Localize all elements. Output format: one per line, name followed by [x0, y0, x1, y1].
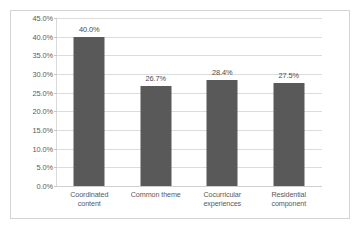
x-axis-category-line: content	[56, 199, 123, 208]
y-axis-tick-label: 35.0%	[13, 51, 53, 60]
bar-slot: 40.0%	[56, 18, 123, 186]
y-axis-tick-label: 5.0%	[13, 163, 53, 172]
bar-value-label: 26.7%	[146, 74, 166, 83]
y-axis-tick-label: 45.0%	[13, 14, 53, 23]
bar[interactable]	[207, 80, 238, 186]
y-axis-tick-label: 10.0%	[13, 144, 53, 153]
bar[interactable]	[74, 37, 105, 186]
x-axis-category-line: Common theme	[123, 190, 190, 199]
y-axis-tick-label: 25.0%	[13, 88, 53, 97]
bar-slot: 26.7%	[123, 18, 190, 186]
chart-plot-wrapper: 45.0%40.0%35.0%30.0%25.0%20.0%15.0%10.0%…	[11, 11, 349, 218]
bar-slot: 27.5%	[256, 18, 323, 186]
bar-value-label: 28.4%	[212, 68, 232, 77]
bar[interactable]	[140, 86, 171, 186]
y-axis-tick-label: 30.0%	[13, 70, 53, 79]
y-axis-tick-label: 15.0%	[13, 126, 53, 135]
x-axis-category-label: Cocurricularexperiences	[189, 190, 256, 208]
bar[interactable]	[273, 83, 304, 186]
bar-slot: 28.4%	[189, 18, 256, 186]
bar-value-label: 27.5%	[279, 71, 299, 80]
x-axis-category-label: Coordinatedcontent	[56, 190, 123, 208]
x-axis-category-line: Coordinated	[56, 190, 123, 199]
y-axis-tick-label: 20.0%	[13, 107, 53, 116]
y-axis-tick-label: 40.0%	[13, 32, 53, 41]
x-axis-category-line: experiences	[189, 199, 256, 208]
x-axis-category-line: Cocurricular	[189, 190, 256, 199]
x-axis: CoordinatedcontentCommon themeCocurricul…	[56, 190, 322, 208]
gridline	[57, 186, 322, 187]
bar-series: 40.0%26.7%28.4%27.5%	[56, 18, 322, 186]
y-axis-tick-mark	[54, 186, 57, 187]
x-axis-category-line: Residential	[256, 190, 323, 199]
x-axis-category-label: Residentialcomponent	[256, 190, 323, 208]
y-axis-tick-label: 0.0%	[13, 182, 53, 191]
y-axis: 45.0%40.0%35.0%30.0%25.0%20.0%15.0%10.0%…	[13, 18, 53, 186]
x-axis-category-line: component	[256, 199, 323, 208]
bar-value-label: 40.0%	[79, 25, 99, 34]
chart-container: 45.0%40.0%35.0%30.0%25.0%20.0%15.0%10.0%…	[10, 10, 350, 219]
x-axis-category-label: Common theme	[123, 190, 190, 208]
